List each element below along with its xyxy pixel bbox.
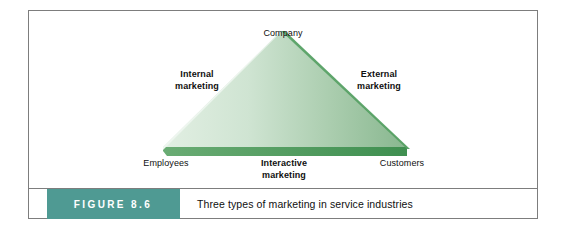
label-company: Company: [29, 28, 537, 40]
service-marketing-triangle-graphic: [159, 29, 411, 159]
label-external-marketing: External marketing: [329, 69, 429, 92]
figure-root: Company Internal marketing External mark…: [0, 0, 566, 229]
label-interactive-marketing-line2: marketing: [262, 170, 306, 180]
label-external-marketing-line1: External: [361, 69, 397, 79]
label-employees: Employees: [121, 158, 211, 170]
label-interactive-marketing: Interactive marketing: [234, 158, 334, 181]
label-internal-marketing-line1: Internal: [180, 69, 213, 79]
label-customers: Customers: [357, 158, 447, 170]
label-interactive-marketing-line1: Interactive: [261, 158, 307, 168]
caption-band: FIGURE 8.6 Three types of marketing in s…: [29, 189, 537, 219]
triangle-base-edge: [163, 147, 407, 156]
label-external-marketing-line2: marketing: [357, 81, 401, 91]
label-internal-marketing: Internal marketing: [147, 69, 247, 92]
figure-number-badge: FIGURE 8.6: [47, 189, 180, 219]
figure-frame: Company Internal marketing External mark…: [28, 10, 538, 219]
label-internal-marketing-line2: marketing: [175, 81, 219, 91]
figure-caption: Three types of marketing in service indu…: [180, 189, 537, 219]
diagram-area: Company Internal marketing External mark…: [29, 11, 537, 188]
